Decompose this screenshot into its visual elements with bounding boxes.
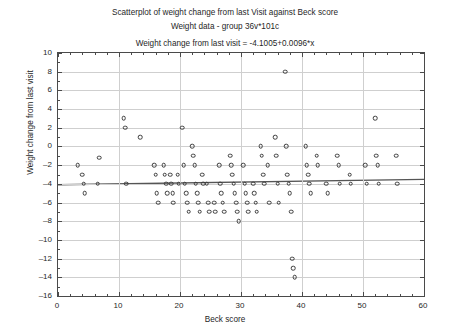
y-axis-tick-label: 8 <box>24 66 52 75</box>
data-point <box>161 163 166 168</box>
data-point <box>252 191 257 196</box>
data-point <box>83 191 88 196</box>
x-axis-tick-top <box>424 53 425 57</box>
data-point <box>192 163 197 168</box>
data-point <box>75 163 80 168</box>
x-axis-minor-tick-top <box>351 53 352 55</box>
y-axis-tick <box>58 240 62 241</box>
y-axis-tick-right <box>420 240 424 241</box>
x-axis-minor-tick-top <box>265 53 266 55</box>
y-axis-tick-right <box>420 296 424 297</box>
x-axis-tick-top <box>58 53 59 57</box>
data-point <box>196 200 201 205</box>
x-axis-minor-tick <box>278 294 279 296</box>
data-point <box>285 172 290 177</box>
y-axis-tick-right <box>420 165 424 166</box>
data-point <box>377 182 382 187</box>
x-axis-minor-tick <box>131 294 132 296</box>
y-axis-tick <box>58 203 62 204</box>
y-axis-tick-right <box>420 277 424 278</box>
data-point <box>241 163 246 168</box>
y-axis-tick-right <box>420 146 424 147</box>
data-point <box>374 154 379 159</box>
x-axis-tick <box>302 292 303 296</box>
x-axis-tick-label: 20 <box>175 301 184 310</box>
x-axis-minor-tick-top <box>387 53 388 55</box>
y-axis-tick-label: –16 <box>24 291 52 300</box>
y-axis-tick-label: 0 <box>24 141 52 150</box>
y-axis-tick <box>58 259 62 260</box>
x-axis-minor-tick-top <box>156 53 157 55</box>
data-point <box>205 182 210 187</box>
x-axis-minor-tick-top <box>82 53 83 55</box>
y-axis-minor-tick <box>58 81 60 82</box>
x-axis-minor-tick-top <box>290 53 291 55</box>
x-axis-tick <box>424 292 425 296</box>
x-axis-minor-tick-top <box>326 53 327 55</box>
data-point <box>183 182 188 187</box>
data-point <box>233 191 238 196</box>
x-axis-minor-tick-top <box>375 53 376 55</box>
y-axis-minor-tick <box>58 100 60 101</box>
y-axis-tick <box>58 109 62 110</box>
data-point <box>200 172 205 177</box>
x-axis-tick-label: 50 <box>358 301 367 310</box>
data-point <box>267 200 272 205</box>
x-axis-minor-tick <box>204 294 205 296</box>
y-axis-tick-right <box>420 221 424 222</box>
data-point <box>169 182 174 187</box>
data-point <box>175 172 180 177</box>
data-point <box>275 182 280 187</box>
y-axis-minor-tick <box>58 193 60 194</box>
gridline-vertical <box>302 53 303 296</box>
y-axis-minor-tick <box>58 287 60 288</box>
data-point <box>375 163 380 168</box>
x-axis-minor-tick-top <box>217 53 218 55</box>
data-point <box>283 69 288 74</box>
data-point <box>258 144 263 149</box>
x-axis-tick <box>363 292 364 296</box>
x-axis-minor-tick-top <box>95 53 96 55</box>
data-point <box>325 191 330 196</box>
gridline-vertical <box>180 53 181 296</box>
y-axis-tick <box>58 72 62 73</box>
data-point <box>97 155 102 160</box>
data-point <box>122 116 127 121</box>
x-axis-minor-tick <box>375 294 376 296</box>
data-point <box>194 182 199 187</box>
y-axis-tick-right <box>420 109 424 110</box>
x-axis-tick-label: 60 <box>419 301 428 310</box>
data-point <box>244 191 249 196</box>
x-axis-tick-top <box>119 53 120 57</box>
y-axis-tick-right <box>420 203 424 204</box>
y-axis-tick <box>58 146 62 147</box>
gridline-vertical <box>363 53 364 296</box>
y-axis-minor-tick <box>58 156 60 157</box>
data-point <box>138 135 143 140</box>
y-axis-tick-right <box>420 90 424 91</box>
y-axis-tick-right <box>420 72 424 73</box>
x-axis-minor-tick <box>192 294 193 296</box>
y-axis-tick-label: –2 <box>24 160 52 169</box>
data-point <box>234 200 239 205</box>
data-point <box>220 200 225 205</box>
data-point <box>277 200 282 205</box>
y-axis-tick <box>58 277 62 278</box>
data-point <box>245 200 250 205</box>
data-point <box>242 182 247 187</box>
x-axis-tick <box>119 292 120 296</box>
x-axis-minor-tick-top <box>107 53 108 55</box>
x-axis-minor-tick-top <box>192 53 193 55</box>
y-axis-tick-right <box>420 259 424 260</box>
x-axis-tick <box>241 292 242 296</box>
data-point <box>314 154 319 159</box>
x-axis-tick-top <box>363 53 364 57</box>
data-point <box>349 182 354 187</box>
x-axis-minor-tick-top <box>229 53 230 55</box>
y-axis-tick <box>58 296 62 297</box>
y-axis-tick-label: –8 <box>24 216 52 225</box>
data-point <box>168 172 173 177</box>
x-axis-label: Beck score <box>0 315 450 324</box>
data-point <box>338 182 343 187</box>
data-point <box>251 182 256 187</box>
